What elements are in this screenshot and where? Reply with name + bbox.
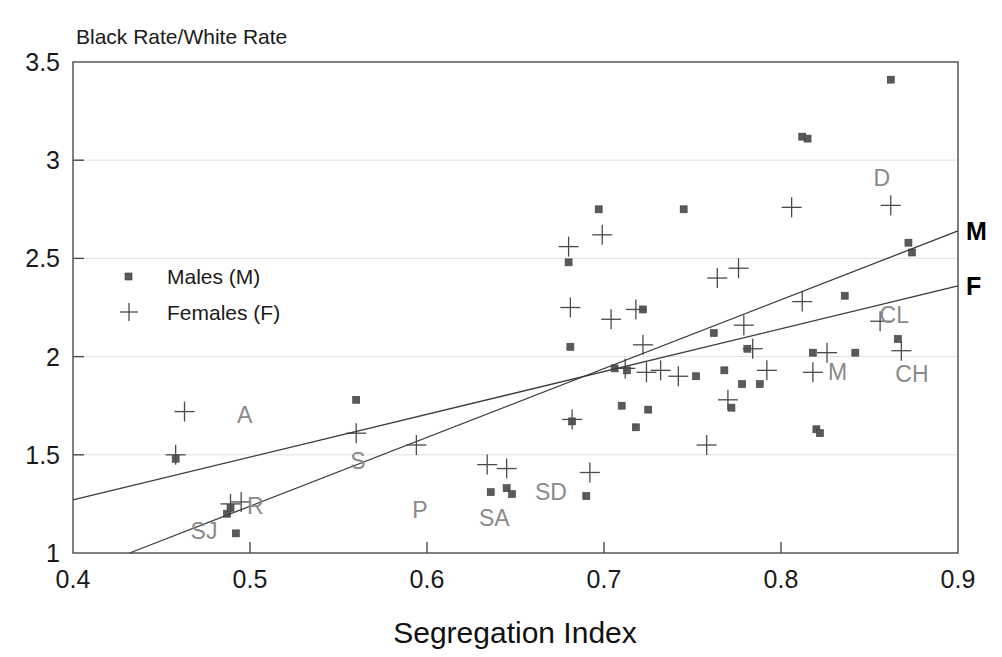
data-point-female (668, 366, 688, 386)
city-label-R: R (247, 493, 264, 519)
data-point-male (804, 135, 811, 142)
data-point-female (601, 309, 621, 329)
data-point-female (803, 362, 823, 382)
line-end-label-M: M (966, 217, 987, 245)
x-tickmarks (250, 542, 781, 553)
data-point-male (693, 373, 700, 380)
city-label-SD: SD (535, 479, 567, 505)
data-point-male (583, 493, 590, 500)
data-point-female (477, 455, 497, 475)
data-point-male (816, 430, 823, 437)
legend-female-marker (120, 303, 138, 321)
data-point-male (728, 404, 735, 411)
data-point-female (782, 197, 802, 217)
data-point-male (887, 76, 894, 83)
city-annotations: ASRSJPSASDDCLMCH (191, 165, 929, 545)
data-point-male (595, 206, 602, 213)
data-point-female (175, 402, 195, 422)
x-tick-labels: 0.40.50.60.70.80.9 (56, 565, 976, 593)
data-point-female (891, 341, 911, 361)
data-point-female (592, 225, 612, 245)
data-point-female (562, 409, 582, 429)
data-point-female (734, 315, 754, 335)
data-point-female (497, 459, 517, 479)
data-point-female (881, 195, 901, 215)
data-point-male (232, 530, 239, 537)
x-tick-label: 0.9 (941, 565, 976, 593)
city-label-SA: SA (479, 505, 510, 531)
data-point-female (651, 360, 671, 380)
city-label-D: D (874, 165, 891, 191)
data-point-female (560, 298, 580, 318)
data-point-male (645, 406, 652, 413)
data-point-male (567, 343, 574, 350)
x-tick-label: 0.7 (587, 565, 622, 593)
data-point-female (729, 258, 749, 278)
scatter-chart: 11.522.533.5 0.40.50.60.70.80.9 Black Ra… (0, 0, 1002, 657)
y-tick-label: 1 (46, 539, 60, 567)
line-end-label-F: F (966, 272, 981, 300)
data-point-male (618, 402, 625, 409)
data-point-male (852, 349, 859, 356)
x-tick-label: 0.5 (233, 565, 268, 593)
y-tick-label: 3 (46, 146, 60, 174)
data-point-female (559, 237, 579, 257)
legend-label-males: Males (M) (167, 265, 260, 288)
data-point-male (565, 259, 572, 266)
data-point-male (487, 489, 494, 496)
x-axis-title: Segregation Index (393, 616, 637, 649)
data-point-male (632, 424, 639, 431)
data-point-male (710, 330, 717, 337)
data-point-male (756, 381, 763, 388)
data-point-female (626, 299, 646, 319)
x-tick-label: 0.8 (764, 565, 799, 593)
city-label-SJ: SJ (191, 518, 218, 544)
male-data-points (172, 76, 915, 537)
data-point-male (721, 367, 728, 374)
city-label-M: M (828, 359, 847, 385)
data-point-female (633, 335, 653, 355)
line-end-labels: MF (966, 217, 987, 300)
chart-canvas: 11.522.533.5 0.40.50.60.70.80.9 Black Ra… (0, 0, 1002, 657)
data-point-male (894, 335, 901, 342)
data-point-male (680, 206, 687, 213)
city-label-P: P (412, 497, 427, 523)
data-point-male (508, 491, 515, 498)
city-label-A: A (237, 402, 253, 428)
data-point-female (743, 339, 763, 359)
legend: Males (M) Females (F) (120, 265, 280, 324)
data-point-female (707, 268, 727, 288)
city-label-S: S (350, 448, 365, 474)
y-tick-label: 2.5 (25, 244, 60, 272)
data-point-male (353, 396, 360, 403)
data-point-female (406, 435, 426, 455)
data-point-female (580, 462, 600, 482)
data-point-female (636, 362, 656, 382)
x-tick-label: 0.4 (56, 565, 91, 593)
legend-male-marker (125, 273, 132, 280)
y-tick-label: 3.5 (25, 48, 60, 76)
y-tick-label: 2 (46, 343, 60, 371)
x-tick-label: 0.6 (410, 565, 445, 593)
y-tickmarks (73, 160, 84, 455)
data-point-female (697, 435, 717, 455)
data-point-male (905, 239, 912, 246)
female-data-points (166, 195, 912, 514)
data-point-female (166, 445, 186, 465)
legend-label-females: Females (F) (167, 301, 280, 324)
y-tick-label: 1.5 (25, 441, 60, 469)
data-point-male (841, 292, 848, 299)
data-point-male (809, 349, 816, 356)
data-point-male (739, 381, 746, 388)
city-label-CH: CH (895, 361, 928, 387)
chart-title: Black Rate/White Rate (76, 25, 287, 48)
city-label-CL: CL (880, 302, 910, 328)
data-point-female (757, 360, 777, 380)
y-tick-labels: 11.522.533.5 (25, 48, 60, 567)
